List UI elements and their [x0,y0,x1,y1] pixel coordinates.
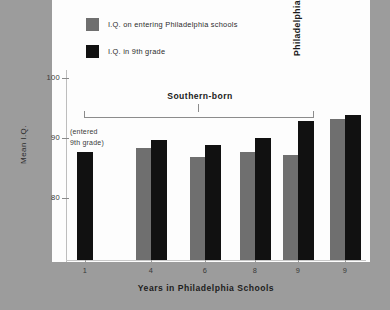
bar-gray-group-5 [283,155,298,260]
y-tick-80 [62,198,69,199]
bar-black-group-3 [205,145,221,260]
x-tick-1 [85,260,86,264]
bar-black-group-5 [298,121,314,260]
legend-swatch-black-icon [86,45,99,58]
bar-gray-group-4 [240,152,255,260]
entered-note-line2: 9th grade) [70,137,104,148]
y-tick-label-80: 80 [36,193,60,202]
chart-legend: I.Q. on entering Philadelphia schools I.… [86,18,238,72]
legend-label-ninth-grade: I.Q. in 9th grade [108,47,165,56]
legend-label-entering: I.Q. on entering Philadelphia schools [108,20,238,29]
x-tick-9b [345,260,346,264]
x-tick-label-9b: 9 [335,266,355,275]
x-tick-label-6: 6 [195,266,215,275]
southern-born-label: Southern-born [140,91,260,101]
x-axis-title: Years in Philadelphia Schools [96,283,316,293]
legend-item-ninth-grade: I.Q. in 9th grade [86,45,238,58]
chart-plot-area: I.Q. on entering Philadelphia schools I.… [0,0,390,310]
bar-black-group-4 [255,138,271,260]
bar-black-group-1 [77,152,93,260]
x-tick-4 [151,260,152,264]
y-tick-90 [62,138,69,139]
y-axis-title: Mean I.Q. [19,110,28,180]
x-tick-8 [255,260,256,264]
y-tick-label-100: 100 [36,73,60,82]
x-tick-6 [205,260,206,264]
x-tick-label-9a: 9 [288,266,308,275]
y-tick-label-90: 90 [36,133,60,142]
bar-black-group-2 [151,140,167,260]
bar-gray-group-2 [136,148,151,260]
x-tick-9a [298,260,299,264]
legend-swatch-gray-icon [86,18,99,31]
entered-note-line1: (entered [70,126,104,137]
bar-gray-group-3 [190,157,205,260]
x-tick-label-4: 4 [141,266,161,275]
entered-ninth-grade-note: (entered 9th grade) [70,126,104,148]
x-axis-baseline [66,260,366,261]
y-tick-100 [62,78,69,79]
bar-black-group-6 [345,115,361,260]
y-axis-line [66,70,67,262]
legend-item-entering: I.Q. on entering Philadelphia schools [86,18,238,31]
x-tick-label-8: 8 [245,266,265,275]
southern-born-bracket [84,111,314,118]
x-tick-label-1: 1 [75,266,95,275]
bar-gray-group-6 [330,119,345,260]
philadelphia-born-label: Philadelphia-born [292,0,302,56]
